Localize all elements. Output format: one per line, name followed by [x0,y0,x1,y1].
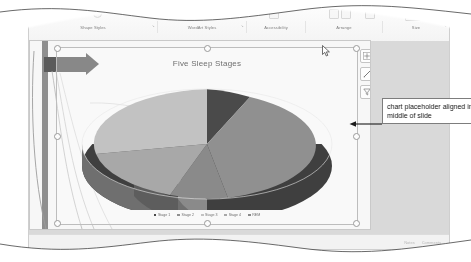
legend-swatch-icon [224,214,227,217]
annotation-text: chart placeholder aligned in middle of s… [387,103,471,119]
ribbon-group-label: Accessibility [264,25,288,30]
funnel-icon [363,88,370,96]
resize-handle-top-center[interactable] [204,45,211,52]
ribbon-group-label: WordArt Styles [188,25,217,30]
bring-forward-icon[interactable] [329,9,339,19]
resize-handle-top-right[interactable] [353,45,360,52]
resize-handle-bottom-left[interactable] [54,220,61,227]
align-objects-icon[interactable] [365,9,375,19]
ribbon-group-label: Shape Styles [80,25,105,30]
resize-handle-middle-right[interactable] [353,133,360,140]
legend-label: Stage 1 [158,213,170,217]
legend-swatch-icon [201,214,204,217]
text-outline-icon[interactable] [237,10,247,17]
ribbon-group-arrange: Arrange [306,21,383,33]
ribbon: A Shape Styles ↘ WordArt Styles [29,5,449,42]
chart-elements-button[interactable] [360,49,370,63]
resize-handle-bottom-center[interactable] [204,220,211,227]
shape-effects-icon[interactable] [93,9,102,18]
legend-item[interactable]: Stage 1 [154,213,171,217]
chart-legend[interactable]: Stage 1 Stage 2 Stage 3 [57,213,357,217]
plus-icon [363,52,370,60]
resize-handle-middle-left[interactable] [54,133,61,140]
ribbon-group-accessibility: Accessibility [247,21,306,33]
dialog-launcher-icon[interactable]: ↘ [241,24,244,28]
status-bar: Notes Comments [29,234,449,249]
legend-item[interactable]: Stage 3 [201,213,218,217]
shape-outline-icon[interactable] [77,12,89,13]
pie-chart-svg [78,78,336,210]
resize-handle-bottom-right[interactable] [353,220,360,227]
brush-icon [363,70,370,78]
shape-width-icon[interactable] [405,14,421,21]
mouse-cursor [322,43,331,61]
send-backward-icon[interactable] [341,9,351,19]
pie-chart[interactable] [78,78,336,210]
screenshot-root: A Shape Styles ↘ WordArt Styles [0,0,471,262]
dialog-launcher-icon[interactable]: ↘ [152,24,155,28]
legend-label: Stage 3 [205,213,217,217]
status-comments-label[interactable]: Comments [422,240,441,245]
ribbon-group-shape-styles: Shape Styles ↘ [29,21,158,33]
legend-label: Stage 2 [182,213,194,217]
legend-item[interactable]: REM [248,213,260,217]
legend-label: Stage 4 [229,213,241,217]
resize-handle-top-left[interactable] [54,45,61,52]
legend-swatch-icon [154,214,157,217]
legend-item[interactable]: Stage 2 [177,213,194,217]
slide-canvas[interactable]: Five Sleep Stages [29,41,449,235]
ribbon-group-label: Size [412,25,420,30]
chart-title[interactable]: Five Sleep Stages [57,59,357,68]
chart-side-buttons [360,49,370,99]
alt-text-icon[interactable] [269,9,279,19]
annotation-arrow [349,120,383,128]
status-notes-label[interactable]: Notes [404,240,414,245]
dialog-launcher-icon[interactable]: ↘ [444,24,447,28]
chart-styles-button[interactable] [360,67,370,81]
text-fill-icon[interactable]: A [225,8,234,17]
legend-item[interactable]: Stage 4 [224,213,241,217]
legend-label: REM [252,213,260,217]
ribbon-group-labels: Shape Styles ↘ WordArt Styles ↘ Accessib… [29,21,449,33]
arrow-pointer-icon [322,45,331,57]
ribbon-group-wordart-styles: WordArt Styles ↘ [158,21,247,33]
chart-filters-button[interactable] [360,85,370,99]
ribbon-group-size: Size ↘ [383,21,449,33]
annotation-callout: chart placeholder aligned in middle of s… [382,98,471,124]
ribbon-icon-strip: A [29,5,449,21]
powerpoint-window: A Shape Styles ↘ WordArt Styles [28,4,450,250]
chart-placeholder[interactable]: Five Sleep Stages [56,47,358,225]
slide[interactable]: Five Sleep Stages [30,41,370,229]
shape-fill-icon[interactable] [63,9,72,18]
legend-swatch-icon [248,214,251,217]
legend-swatch-icon [177,214,180,217]
ribbon-group-label: Arrange [336,25,351,30]
